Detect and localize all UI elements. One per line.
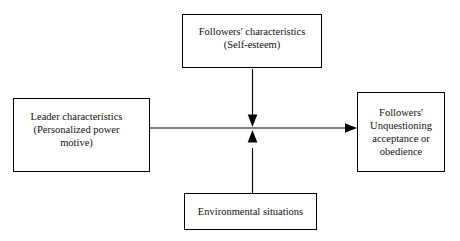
node-follower-obedience-label: Followers' Unquestioning acceptance or o… bbox=[358, 106, 444, 158]
node-leader-characteristics-label: Leader characteristics (Personalized pow… bbox=[14, 110, 149, 149]
node-follower-obedience: Followers' Unquestioning acceptance or o… bbox=[357, 92, 445, 172]
node-environmental-situations: Environmental situations bbox=[184, 193, 317, 230]
node-followers-characteristics-label: Followers' characteristics (Self-esteem) bbox=[183, 25, 321, 51]
node-leader-characteristics: Leader characteristics (Personalized pow… bbox=[13, 98, 150, 172]
connector-followers-characteristics-down bbox=[248, 69, 258, 127]
node-followers-characteristics: Followers' characteristics (Self-esteem) bbox=[182, 14, 322, 68]
connector-leader-to-obedience bbox=[150, 123, 357, 133]
diagram-canvas: Followers' characteristics (Self-esteem)… bbox=[0, 0, 460, 241]
node-environmental-situations-label: Environmental situations bbox=[185, 205, 316, 218]
connector-environmental-situations-up bbox=[248, 130, 258, 193]
